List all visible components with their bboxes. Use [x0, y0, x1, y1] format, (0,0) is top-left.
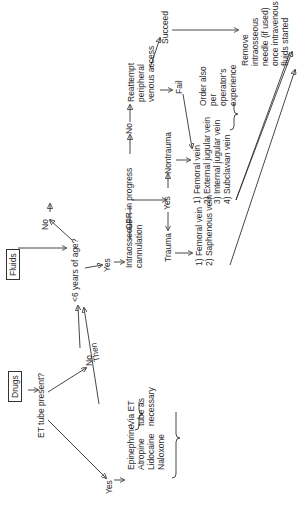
et-tube-question: ET tube present? — [36, 373, 46, 438]
fluids-label: Fluids — [8, 253, 18, 276]
age-no-label: No — [40, 219, 50, 230]
drugs-box: Drugs — [8, 371, 22, 402]
trauma-vein-list: 1) Femoral vein 2) Saphenous vein — [194, 195, 214, 266]
remove-needle-step: Remove intraosseous needle (if used) onc… — [240, 1, 290, 66]
via-et-note: Via ET tube as necessary — [126, 387, 156, 426]
order-note: Order also per operator's experience — [198, 64, 238, 106]
age-yes-label: Yes — [102, 258, 112, 272]
flowchart-canvas: Drugs Fluids ET tube present? Yes No Epi… — [0, 0, 299, 530]
cpr-no-label: No — [124, 123, 134, 134]
fail-label: Fail — [174, 80, 184, 94]
fluids-box: Fluids — [6, 249, 20, 280]
age-question: <6 years of age? — [70, 238, 80, 302]
drug-list: Epinephrine Atropine Lidocaine Naloxone — [126, 425, 166, 470]
reattempt-peripheral-access: Reattempt peripheral venous access — [126, 46, 156, 102]
succeed-label: Succeed — [160, 11, 170, 44]
cpr-yes-label: Yes — [162, 196, 172, 210]
nontrauma-label: Nontrauma — [163, 132, 173, 174]
nontrauma-vein-list: 1) Femoral vein 2) External jugular vein… — [192, 117, 232, 204]
cpr-in-progress: CPR in progress — [124, 168, 134, 230]
trauma-label: Trauma — [163, 233, 173, 262]
drugs-label: Drugs — [10, 375, 20, 398]
et-yes-label: Yes — [104, 480, 114, 494]
